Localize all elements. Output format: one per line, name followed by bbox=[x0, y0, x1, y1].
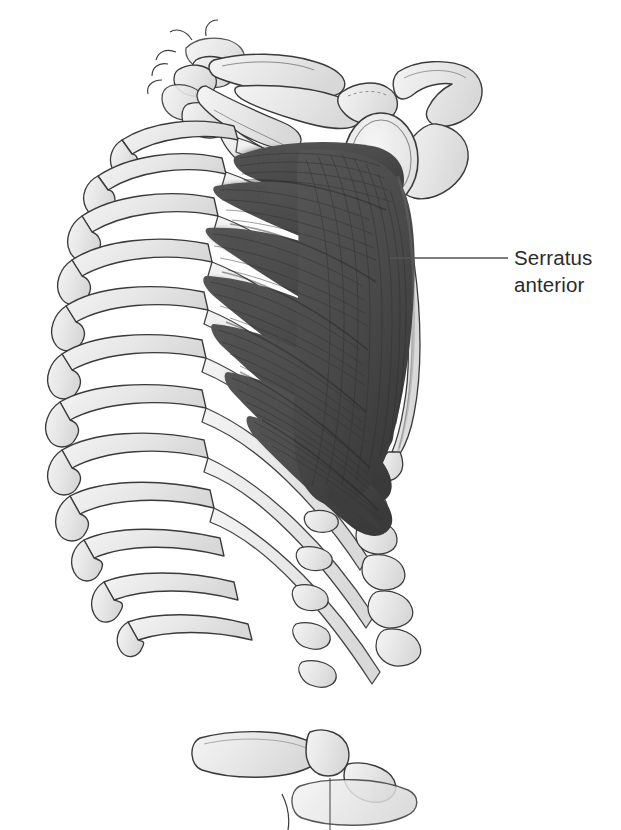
label-line-1: Serratus bbox=[514, 246, 592, 269]
anatomy-figure bbox=[0, 0, 621, 830]
label-serratus-anterior: Serratusanterior bbox=[514, 244, 592, 298]
label-line-2: anterior bbox=[514, 273, 584, 296]
illustration-page: Serratusanterior bbox=[0, 0, 621, 830]
